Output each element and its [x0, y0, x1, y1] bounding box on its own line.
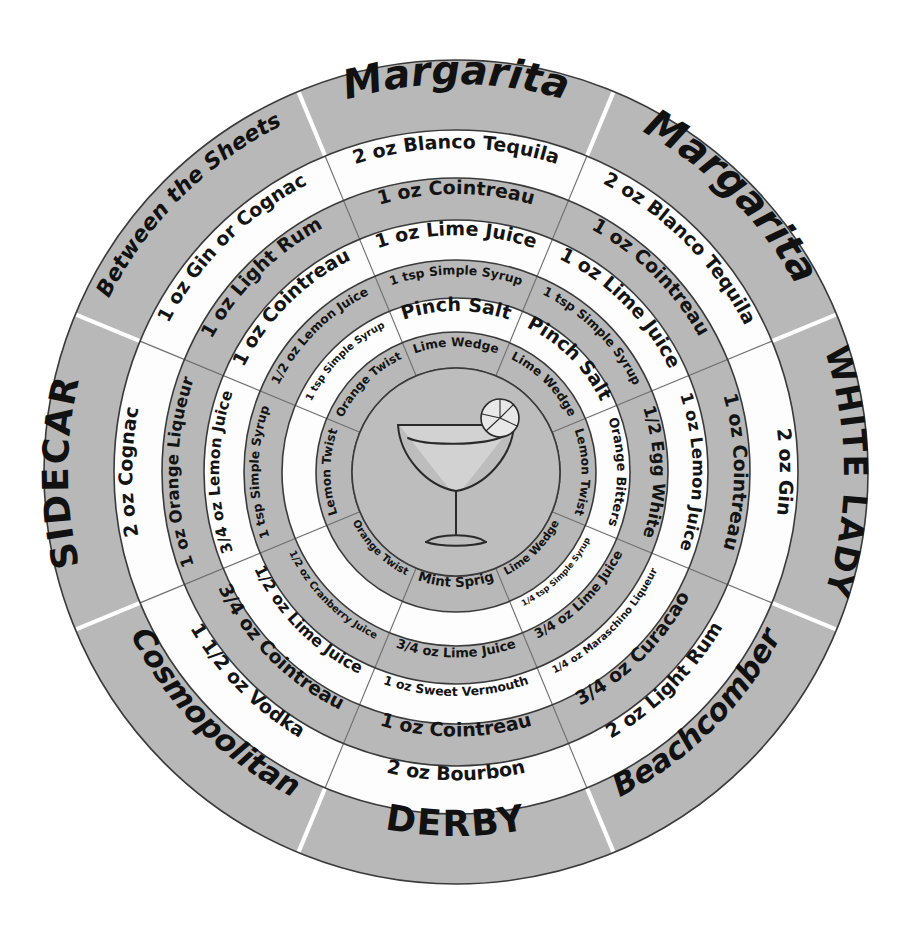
- cocktail-wheel-svg: Margarita2 oz Blanco Tequila1 oz Cointre…: [0, 0, 920, 934]
- lime-wheel-icon: [481, 399, 519, 437]
- cocktail-name: DERBY: [383, 797, 529, 844]
- coupe-glass-icon: [352, 368, 560, 576]
- cocktail-wheel-figure: Margarita2 oz Blanco Tequila1 oz Cointre…: [0, 0, 920, 934]
